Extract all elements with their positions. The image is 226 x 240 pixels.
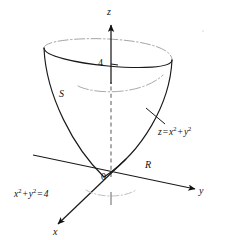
equation-leader-tick bbox=[146, 108, 165, 124]
circle-eq-rhs: 4 bbox=[44, 189, 49, 199]
y-axis-line bbox=[33, 155, 195, 189]
surface-eq-term2-exp: 2 bbox=[188, 125, 191, 132]
top-ellipse-front-arc bbox=[44, 48, 172, 68]
y-axis-label: y bbox=[199, 186, 203, 196]
region-label-r: R bbox=[145, 160, 151, 170]
parabola-left-branch bbox=[44, 48, 104, 177]
z-tick-label-4: 4 bbox=[98, 58, 103, 68]
figure-canvas bbox=[0, 0, 226, 240]
x-axis-line bbox=[58, 159, 126, 224]
z-axis-label: z bbox=[107, 7, 111, 17]
origin-label: 0 bbox=[101, 172, 106, 182]
circle-equation-label: x2+y2=4 bbox=[14, 190, 48, 200]
paraboloid-figure: z 4 S R 0 y x z=x2+y2 x2+y2=4 bbox=[0, 0, 226, 240]
surface-eq-plus: + bbox=[177, 127, 184, 137]
print-speck bbox=[202, 30, 203, 31]
surface-label-s: S bbox=[59, 89, 64, 99]
parabola-right-branch bbox=[104, 60, 172, 177]
z-axis-tick-4 bbox=[111, 64, 118, 65]
circle-eq-equals: = bbox=[36, 189, 43, 199]
top-ellipse-back-arc bbox=[44, 39, 172, 60]
surface-eq-equals: = bbox=[162, 127, 169, 137]
surface-equation-label: z=x2+y2 bbox=[158, 128, 191, 138]
inner-back-arc bbox=[78, 75, 163, 92]
x-axis-label: x bbox=[53, 227, 57, 237]
circle-eq-plus: + bbox=[21, 189, 28, 199]
